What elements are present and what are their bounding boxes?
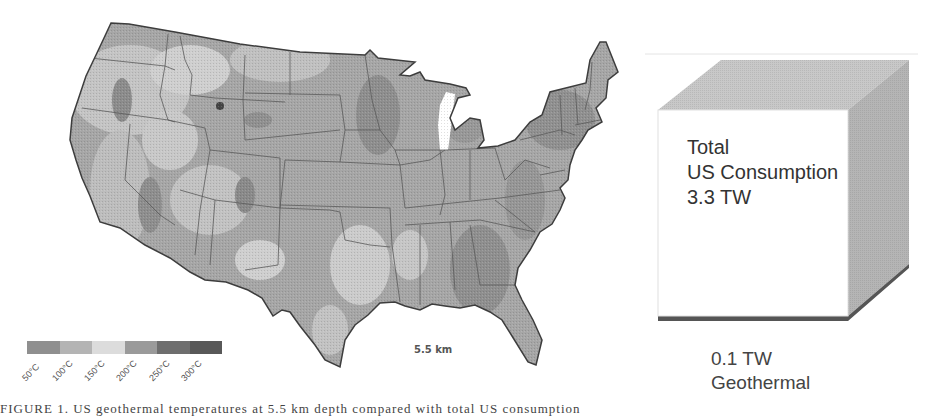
legend-label: 300°C	[179, 358, 204, 383]
figure-caption: FIGURE 1. US geothermal temperatures at …	[0, 401, 581, 417]
legend-swatch-150	[92, 341, 125, 354]
legend-label: 250°C	[147, 358, 172, 383]
consumption-line-3: 3.3 TW	[687, 185, 838, 210]
legend-label: 50°C	[20, 362, 41, 383]
legend-tick-labels: 50°C 100°C 150°C 200°C 250°C 300°C	[14, 358, 244, 388]
legend-swatch-250	[157, 341, 190, 354]
depth-label: 5.5 km	[414, 344, 452, 355]
consumption-line-2: US Consumption	[687, 160, 838, 185]
us-temperature-map	[0, 0, 640, 400]
consumption-label: Total US Consumption 3.3 TW	[687, 135, 838, 210]
consumption-line-1: Total	[687, 135, 838, 160]
legend-label: 150°C	[82, 358, 107, 383]
legend-label: 100°C	[50, 358, 75, 383]
geothermal-label: 0.1 TW Geothermal	[711, 347, 810, 395]
legend-swatch-50	[27, 341, 60, 354]
geothermal-text: Geothermal	[711, 371, 810, 395]
legend-swatch-200	[125, 341, 158, 354]
legend-swatch-100	[60, 341, 93, 354]
geothermal-value: 0.1 TW	[711, 347, 810, 371]
legend-label: 200°C	[114, 358, 139, 383]
legend-swatch-300	[190, 341, 223, 354]
temperature-legend-bar	[27, 341, 222, 354]
